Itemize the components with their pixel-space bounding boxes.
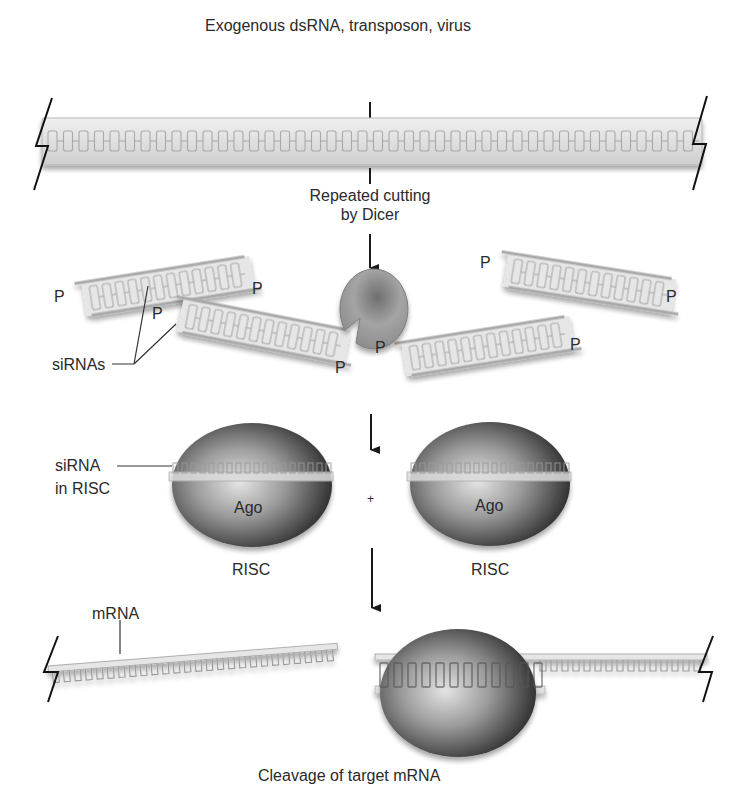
sirna-duplex <box>496 252 683 314</box>
dicer-step-line1: Repeated cutting <box>290 186 450 205</box>
ago-label-right: Ago <box>475 496 503 515</box>
risc-complex-right <box>407 422 571 546</box>
plus-sign: + <box>367 490 374 509</box>
phosphate-label: P <box>54 287 65 306</box>
risc-bound-to-mrna <box>380 629 536 757</box>
sirna-duplex <box>170 297 357 365</box>
dicer-step-label: Repeated cutting by Dicer <box>290 186 450 224</box>
sirna-in-risc-line2: in RISC <box>55 479 110 498</box>
long-dsrna <box>42 118 702 165</box>
sirna-duplex <box>394 315 581 377</box>
phosphate-label: P <box>335 358 346 377</box>
phosphate-label: P <box>252 279 263 298</box>
ago-label-left: Ago <box>234 498 262 517</box>
sirna-in-risc-label: siRNA in RISC <box>55 456 110 498</box>
base-pair <box>534 663 542 687</box>
phosphate-label: P <box>570 335 581 354</box>
break-right-icon <box>693 96 707 190</box>
risc-label-right: RISC <box>471 560 509 579</box>
break-right-mrna-icon <box>699 636 713 702</box>
risc-complex-left <box>169 423 333 547</box>
risc-label-left: RISC <box>232 560 270 579</box>
cleavage-label: Cleavage of target mRNA <box>258 766 440 785</box>
rnai-diagram <box>0 0 752 811</box>
sirna-in-risc-line1: siRNA <box>55 456 110 475</box>
mrna-label: mRNA <box>92 604 139 623</box>
dicer-enzyme <box>340 269 408 349</box>
source-label: Exogenous dsRNA, transposon, virus <box>205 16 471 35</box>
sirnas-label: siRNAs <box>52 355 105 374</box>
dicer-step-line2: by Dicer <box>290 205 450 224</box>
phosphate-label: P <box>480 253 491 272</box>
phosphate-label: P <box>375 338 386 357</box>
phosphate-label: P <box>666 287 677 306</box>
phosphate-label: P <box>152 304 163 323</box>
mrna-fragment-left <box>48 643 338 683</box>
